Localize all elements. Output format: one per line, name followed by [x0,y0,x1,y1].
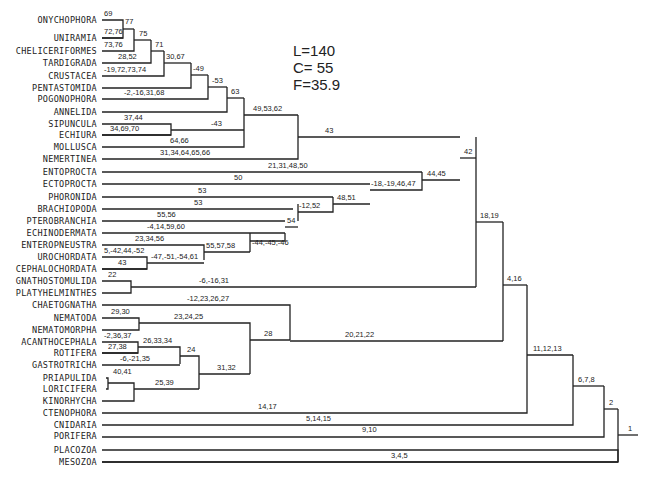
branch-label: 77 [125,17,133,26]
branch-label: 40,41 [113,367,132,376]
branch [102,386,604,437]
taxon-pentastomida: PENTASTOMIDA [32,83,97,93]
taxon-echiura: ECHIURA [59,130,97,140]
taxon-pterobranchia: PTEROBRANCHIA [27,216,97,226]
taxon-nematoda: NEMATODA [54,313,97,323]
branch-label: 5,14,15 [306,414,331,423]
consistency-index: C= 55 [293,59,340,76]
branch-label: -4,14,59,60 [147,222,185,231]
branch-label: 26,33,34 [143,336,172,345]
taxon-kinorhycha: KINORHYCHA [43,396,97,406]
taxon-ectoprocta: ECTOPROCTA [43,179,97,189]
taxon-gnathostomulida: GNATHOSTOMULIDA [16,276,97,286]
branch-label: 55,57,58 [206,241,235,250]
taxon-gastrotricha: GASTROTRICHA [32,360,97,370]
taxon-acanthocephala: ACANTHOCEPHALA [21,337,97,347]
taxon-phoronida: PHORONIDA [48,192,97,202]
branch-label: 49,53,62 [253,104,282,113]
branch-label: 72,76 [104,27,123,36]
branch-label: 37,44 [124,113,143,122]
f-ratio: F=35.9 [293,76,340,93]
taxon-ctenophora: CTENOPHORA [43,408,97,418]
tree-branches [102,20,638,462]
branch-label: 30,67 [166,52,185,61]
branch-label: -49 [193,64,204,73]
branch-label: 29,30 [111,307,130,316]
branch-label: -12,23,26,27 [187,294,229,303]
branch-label: 21,31,48,50 [268,161,308,170]
branch-label: -19,72,73,74 [104,65,146,74]
taxon-nematomorpha: NEMATOMORPHA [32,325,97,335]
taxon-brachiopoda: BRACHIOPODA [37,204,97,214]
branch-label: -2,36,37 [104,331,132,340]
branch-label: 43 [325,126,333,135]
branch-label: -2,-16,31,68 [124,88,164,97]
branch-label: 18,19 [480,211,499,220]
branch-label: 44,45 [427,169,446,178]
branch-label: 3,4,5 [391,451,408,460]
branch-label: 71 [155,40,163,49]
branch-label: 69 [104,9,112,18]
branch-character-labels: 697772,7673,767528,5271-19,72,73,7430,67… [104,9,632,460]
taxon-urochordata: UROCHORDATA [37,252,97,262]
branch-label: 4,16 [507,274,522,283]
branch-label: 34,69,70 [110,124,139,133]
branch-label: -47,-51,-54,61 [151,252,198,261]
taxon-placozoa: PLACOZOA [54,445,97,455]
branch-label: 14,17 [258,402,277,411]
branch-label: 23,24,25 [174,312,203,321]
branch-label: 42 [464,147,472,156]
branch-label: 9,10 [362,425,377,434]
branch-label: 75 [139,29,147,38]
branch-label: 24 [187,345,195,354]
branch-label: -53 [212,76,223,85]
taxon-loricifera: LORICIFERA [43,384,97,394]
taxon-onychophora: ONYCHOPHORA [37,15,97,25]
taxon-cheliceriformes: CHELICERIFORMES [16,46,97,56]
taxon-priapulida: PRIAPULIDA [43,373,97,383]
taxon-entoprocta: ENTOPROCTA [43,167,97,177]
branch-label: -43 [211,119,222,128]
branch-label: 1 [628,424,632,433]
branch [102,285,527,413]
branch [102,318,139,330]
branch-label: 53 [198,186,206,195]
taxon-porifera: PORIFERA [54,431,97,441]
branch-label: -12,52 [299,201,320,210]
branch-label: 54 [287,216,295,225]
branch-label: -6,-16,31 [199,276,229,285]
branch-label: 55,56 [157,210,176,219]
branch [102,450,618,462]
branch [106,378,108,389]
branch [102,383,134,401]
branch-label: 22 [108,270,116,279]
taxon-nemertinea: NEMERTINEA [43,154,97,164]
taxon-cnidaria: CNIDARIA [54,420,97,430]
taxon-mesozoa: MESOZOA [59,457,97,467]
branch-label: 31,34,64,65,66 [160,148,210,157]
taxon-sipuncula: SIPUNCULA [48,119,97,129]
taxon-crustacea: CRUSTACEA [48,71,97,81]
taxon-pogonophora: POGONOPHORA [37,94,97,104]
taxon-cephalochordata: CEPHALOCHORDATA [16,264,97,274]
taxon-echinodermata: ECHINODERMATA [27,228,97,238]
branch-label: 64,66 [170,136,189,145]
taxon-uniramia: UNIRAMIA [54,33,97,43]
branch-label: -6,-21,35 [120,354,150,363]
branch-label: 63 [231,87,239,96]
branch-label: 2 [609,398,613,407]
branch-label: 23,34,56 [135,234,164,243]
branch [102,281,131,293]
branch-label: 28,52 [118,52,137,61]
branch-label: 11,12,13 [533,344,562,353]
branch-label: 6,7,8 [578,375,595,384]
taxon-tardigrada: TARDIGRADA [43,58,97,68]
taxon-platyhelminthes: PLATYHELMINTHES [16,288,97,298]
branch-label: 20,21,22 [345,330,374,339]
branch-label: 50 [234,173,242,182]
branch-label: 25,39 [155,378,174,387]
branch-label: 53 [194,198,202,207]
branch-label: 28 [264,329,272,338]
taxon-mollusca: MOLLUSCA [54,142,97,152]
taxon-enteropneustra: ENTEROPNEUSTRA [21,240,97,250]
